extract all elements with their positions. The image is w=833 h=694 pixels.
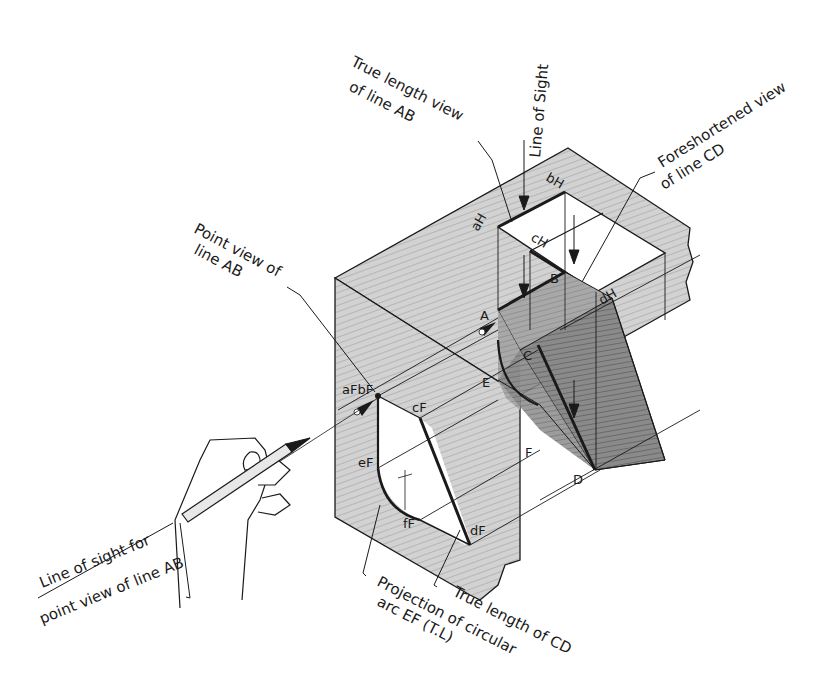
point-label-B: B xyxy=(550,271,559,286)
los-point-view-label-2: point view of line AB xyxy=(37,553,186,627)
point-label-dF: dF xyxy=(470,523,486,538)
point-label-A: A xyxy=(480,308,489,323)
point-label-cF: cF xyxy=(412,400,427,415)
line-of-sight-label: Line of Sight xyxy=(526,63,552,158)
point-label-F: F xyxy=(525,445,532,460)
point-label-D: D xyxy=(573,472,583,487)
point-label-E: E xyxy=(482,375,490,390)
point-label-fF: fF xyxy=(403,516,415,531)
point-label-C: C xyxy=(523,348,532,363)
point-label-eF: eF xyxy=(358,455,373,470)
projection-diagram: Line of Sight True length view of line A… xyxy=(0,0,833,694)
point-label-aF-bF: aFbF xyxy=(342,382,373,397)
